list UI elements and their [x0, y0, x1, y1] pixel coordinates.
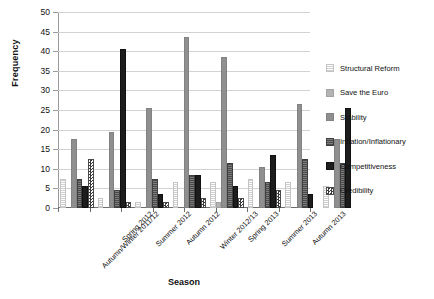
- x-axis-tick-label: Autumn/Winter 2011/12: [100, 210, 160, 270]
- bar-structural: [60, 179, 66, 208]
- legend-item-label: Credibility: [340, 186, 373, 195]
- legend-item-label: Stability: [340, 113, 367, 122]
- swatch-inflation-icon: [326, 138, 334, 146]
- legend-item[interactable]: Credibility: [326, 179, 434, 204]
- bar-credibility: [276, 190, 282, 208]
- bar-structural: [98, 198, 104, 208]
- y-axis-title: Frequency: [10, 8, 20, 118]
- bar-competitiveness: [308, 194, 314, 208]
- bar-structural: [173, 182, 179, 208]
- bar-credibility: [238, 198, 244, 208]
- bar-group: [283, 12, 321, 208]
- bar-groups: [58, 12, 310, 208]
- bar-group: [246, 12, 284, 208]
- bar-structural: [248, 179, 254, 208]
- y-axis-tick-label: 50: [41, 8, 50, 16]
- swatch-competitiveness-icon: [326, 162, 334, 170]
- chart-legend: Structural ReformSave the EuroStabilityI…: [326, 56, 434, 203]
- swatch-structural-reform-icon: [326, 64, 334, 72]
- y-axis-tick-label: 40: [41, 47, 50, 55]
- y-axis-tick-label: 30: [41, 86, 50, 94]
- bar-credibility: [88, 159, 94, 208]
- y-axis-tick-label: 15: [41, 145, 50, 153]
- bar-structural: [285, 182, 291, 208]
- y-axis-tick-label: 5: [45, 184, 50, 192]
- legend-item[interactable]: Stability: [326, 105, 434, 130]
- legend-item[interactable]: Save the Euro: [326, 81, 434, 106]
- legend-item-label: Competitiveness: [340, 162, 396, 171]
- y-axis-tick-label: 25: [41, 106, 50, 114]
- y-axis-tick-label: 35: [41, 67, 50, 75]
- bar-group: [96, 12, 134, 208]
- bar-credibility: [163, 202, 169, 208]
- bar-competitiveness: [120, 49, 126, 208]
- swatch-stability-icon: [326, 113, 334, 121]
- y-axis-tick-label: 10: [41, 165, 50, 173]
- legend-item-label: Inflation/Inflationary: [340, 137, 406, 146]
- bar-group: [171, 12, 209, 208]
- legend-item-label: Structural Reform: [340, 64, 400, 73]
- bar-chart-figure: Frequency 50454035302520151050 Autumn/Wi…: [0, 0, 434, 299]
- bar-credibility: [201, 198, 207, 208]
- bar-credibility: [126, 202, 132, 208]
- swatch-credibility-icon: [326, 187, 334, 195]
- y-axis-tick-label: 0: [45, 204, 50, 212]
- legend-item-label: Save the Euro: [340, 88, 388, 97]
- legend-item[interactable]: Inflation/Inflationary: [326, 130, 434, 155]
- swatch-save-the-euro-icon: [326, 89, 334, 97]
- bar-structural: [135, 202, 141, 208]
- y-axis-tick-label: 20: [41, 126, 50, 134]
- x-axis-title: Season: [58, 277, 310, 287]
- bar-group: [133, 12, 171, 208]
- plot-area: 50454035302520151050: [58, 12, 310, 208]
- legend-item[interactable]: Structural Reform: [326, 56, 434, 81]
- x-axis-tick-labels: Autumn/Winter 2011/12Spring 2012Summer 2…: [58, 210, 310, 272]
- y-axis-tick-label: 45: [41, 28, 50, 36]
- bar-group: [208, 12, 246, 208]
- bar-group: [58, 12, 96, 208]
- legend-item[interactable]: Competitiveness: [326, 154, 434, 179]
